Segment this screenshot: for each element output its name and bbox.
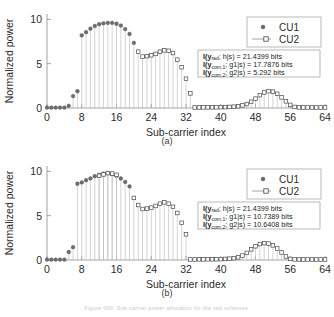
data-point [158,202,162,206]
data-point [54,258,58,262]
data-point [106,21,110,25]
y-axis-title: Normalized power [3,18,15,103]
x-tick-label: 0 [44,111,50,123]
figure-footer-caption: Figure 000. Sub-carrier power allocation… [0,305,334,312]
data-point [288,257,292,261]
data-point [132,41,136,45]
x-tick-label: 8 [79,263,85,275]
x-tick-label: 16 [111,263,123,275]
data-point [280,251,284,255]
data-point [275,247,279,251]
series-cu1 [45,171,131,261]
data-point [76,182,80,186]
data-point [93,174,97,178]
data-point [284,255,288,259]
data-point [262,91,266,95]
data-point [54,106,58,110]
x-axis-title: Sub-carrier index [146,278,227,290]
data-point [323,106,327,110]
data-point [275,92,279,96]
data-point [128,32,132,36]
data-point [180,65,184,69]
data-point [97,22,101,26]
x-tick-label: 16 [111,111,123,123]
x-tick-label: 64 [319,263,331,275]
x-tick-label: 40 [215,263,227,275]
x-tick-label: 32 [180,111,192,123]
data-point [115,22,119,26]
data-point [67,250,71,254]
chart-a: 08162432404856640510Sub-carrier indexNor… [0,0,334,140]
data-point [149,53,153,57]
data-point [306,258,310,262]
x-tick-label: 64 [319,111,331,123]
data-point [193,258,197,262]
data-point [219,105,223,109]
data-point [171,205,175,209]
data-point [128,184,132,188]
data-point [241,254,245,258]
data-point [319,258,323,262]
legend-label: CU2 [279,34,299,45]
chart-b: 08162432404856640510Sub-carrier indexNor… [0,152,334,292]
data-point [202,258,206,262]
data-point [284,100,288,104]
y-tick-label: 5 [36,210,42,222]
data-point [84,178,88,182]
data-point [58,258,62,262]
data-point [232,105,236,109]
data-point [141,207,145,211]
data-point [49,106,53,110]
data-point [89,177,93,181]
data-point [197,106,201,110]
data-point [215,105,219,109]
data-point [267,89,271,93]
x-tick-label: 8 [79,111,85,123]
data-point [323,258,327,262]
data-point [301,258,305,262]
y-tick-label: 5 [36,58,42,70]
data-point [80,181,84,185]
data-point [110,21,114,25]
data-point [167,49,171,53]
data-point [97,174,101,178]
data-point [245,251,249,255]
data-point [301,106,305,110]
data-point [171,51,175,55]
data-point [119,177,123,181]
data-point [106,171,110,175]
data-point [241,104,245,108]
legend-marker-filled-circle-icon [261,177,265,181]
data-point [110,172,114,176]
data-point [197,258,201,262]
data-point [45,258,49,262]
data-point [154,52,158,56]
data-point [189,92,193,96]
x-axis-title: Sub-carrier index [146,126,227,138]
panel-b: 08162432404856640510Sub-carrier indexNor… [0,152,334,304]
data-point [232,256,236,260]
data-point [49,258,53,262]
data-point [62,106,66,110]
x-tick-label: 56 [284,263,296,275]
data-point [228,257,232,261]
data-point [162,49,166,53]
legend-marker-open-square-icon [264,37,268,41]
data-point [45,106,49,110]
data-point [297,106,301,110]
legend-marker-filled-circle-icon [261,25,265,29]
data-point [102,21,106,25]
data-point [288,103,292,107]
legend-label: CU1 [279,174,299,185]
data-point [210,105,214,109]
data-point [271,90,275,94]
x-tick-label: 24 [145,111,157,123]
data-point [93,24,97,28]
series-cu1 [45,21,136,109]
panel-a: 08162432404856640510Sub-carrier indexNor… [0,0,334,152]
data-point [149,206,153,210]
data-point [310,106,314,110]
x-tick-label: 32 [180,263,192,275]
x-tick-label: 48 [250,263,262,275]
data-point [306,106,310,110]
